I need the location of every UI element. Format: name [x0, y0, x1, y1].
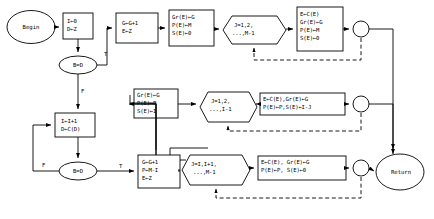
- node-body-top-line4: S(E)←0: [300, 35, 319, 42]
- edge-decision1-true: [97, 28, 112, 65]
- node-body-top-line1: E←C(E): [300, 11, 319, 18]
- node-loop-bot-line2: ...,M-1: [193, 169, 216, 176]
- node-loop-top-line2: ...,M-1: [232, 30, 255, 37]
- edge-label-d2-true: T: [119, 163, 122, 170]
- node-decision2-label: B=D: [64, 168, 92, 175]
- node-loop-bot-line1: J=I,I+1,: [191, 161, 217, 168]
- node-incr-line1: I←I+1: [61, 118, 77, 125]
- edge-junctiontop-rail: [369, 29, 393, 149]
- node-gr-top-line2: P(E)←M: [172, 22, 191, 29]
- node-g-bot-line3: E←Z: [142, 175, 152, 182]
- edge-label-d1-true: T: [104, 51, 107, 58]
- edge-label-d1-false: F: [81, 88, 84, 95]
- node-g-bot-line2: P←M-I: [142, 167, 158, 174]
- edge-loopbot-feed: [170, 148, 208, 155]
- node-loop-top-line1: J=1,2,: [234, 22, 253, 29]
- node-body-top-line2: Gr(E)←G: [300, 19, 323, 26]
- node-gr-top-line1: Gr(E)←G: [172, 14, 195, 21]
- node-gr-top-line3: S(E)←0: [172, 30, 191, 37]
- node-body-mid-line2: P(E)←P,S(E)←I-J: [263, 104, 311, 111]
- edge-junctionbot-return: [369, 168, 374, 171]
- node-body-top-line3: P(E)←M: [300, 27, 319, 34]
- node-return-label: Return: [385, 169, 417, 176]
- node-begin-label: Begin: [16, 24, 46, 31]
- node-body-bot-line2: P(E)←P, S(E)←0: [261, 167, 306, 174]
- node-body-mid-line1: E←C(E),Gr(E)←G: [263, 96, 308, 103]
- node-junction-top: [353, 21, 369, 37]
- node-gr-mid-line3: S(E)←I: [137, 108, 156, 115]
- flowchart-canvas: Begin I←0 D←Z B=D I←I+1 D←C(D) B=D G←G+1…: [0, 0, 434, 219]
- node-incr-line2: D←C(D): [61, 126, 80, 133]
- node-init-line2: D←Z: [67, 26, 77, 33]
- edge-label-d2-false: F: [42, 162, 45, 169]
- node-junction-bot: [353, 160, 369, 176]
- node-g-top-line1: G←G+1: [122, 20, 138, 27]
- node-init-line1: I←0: [67, 18, 77, 25]
- node-gr-mid-line1: Gr(E)←G: [137, 92, 160, 99]
- node-loop-mid-line2: ...,I-1: [209, 106, 232, 113]
- node-junction-mid: [353, 96, 369, 112]
- node-g-top-line2: E←Z: [122, 28, 132, 35]
- node-gr-mid-line2: P(E)←P: [137, 100, 156, 107]
- node-loop-mid-line1: J=1,2,: [211, 98, 230, 105]
- node-decision1-label: B=D: [64, 62, 92, 69]
- node-body-bot-line1: E←C(E), Gr(E)←G: [261, 159, 309, 166]
- node-g-bot-line1: G←G+1: [142, 159, 158, 166]
